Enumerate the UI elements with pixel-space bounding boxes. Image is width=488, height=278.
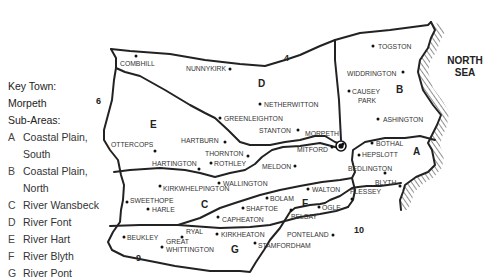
town-sweethope: SWEETHOPE [126, 197, 174, 204]
town-label: WALLINGTON [223, 180, 268, 187]
sea-label-line1: NORTH [447, 55, 483, 66]
town-dot-icon [402, 71, 405, 74]
town-label: COMBHILL [120, 60, 155, 67]
town-label: BOTHAL [376, 140, 403, 147]
town-label: HARTBURN [181, 137, 219, 144]
town-dot-icon [135, 55, 138, 58]
town-thornton: THORNTON [205, 150, 250, 158]
town-stamfordham: STAMFORDHAM [254, 242, 312, 250]
town-label: CAPHEATON [222, 216, 264, 223]
town-label: GREAT [166, 238, 189, 245]
town-causey: CAUSEY [348, 88, 381, 95]
town-whittington: WHITTINGTON [166, 246, 214, 253]
boundary-d-b [335, 40, 341, 140]
town-label: MORPETH [305, 130, 339, 137]
boundary-number: 6 [96, 96, 101, 106]
town-label: OTTERCOPS [111, 141, 154, 148]
area-label-g: G [231, 244, 239, 255]
map-canvas: COMBHILLNUNNYKIRKTOGSTONWIDDRINGTONCAUSE… [0, 0, 488, 278]
town-rothley: ROTHLEY [210, 160, 247, 167]
key-town-marker [336, 141, 346, 151]
town-capheaton: CAPHEATON [217, 216, 264, 224]
town-stanton: STANTON [259, 127, 300, 134]
area-label-f: F [302, 198, 308, 209]
town-dot-icon [224, 141, 227, 144]
town-dot-icon [348, 90, 351, 93]
town-greenleighton: GREENLEIGHTON [219, 115, 283, 122]
town-label: ROTHLEY [214, 160, 247, 167]
town-shaftoe: SHAFTOE [242, 205, 279, 212]
town-label: MITFORD [297, 146, 328, 153]
town-label: HEPSLOTT [362, 151, 398, 158]
town-label: RYAL [186, 228, 203, 235]
town-label: KIRKHEATON [221, 231, 265, 238]
town-nunnykirk: NUNNYKIRK [186, 65, 232, 72]
area-label-c: C [201, 199, 208, 210]
town-label: BEUKLEY [127, 234, 159, 241]
town-dot-icon [154, 150, 157, 153]
town-plessey: PLESSEY [350, 188, 381, 201]
area-label-d: D [258, 78, 265, 89]
town-label: MELDON [262, 163, 291, 170]
town-label: OGLE [322, 204, 341, 211]
town-dot-icon [297, 129, 300, 132]
town-beukley: BEUKLEY [123, 234, 159, 241]
town-dot-icon [307, 188, 310, 191]
town-ryal: RYAL [181, 228, 204, 239]
town-dot-icon [342, 143, 345, 146]
town-label: GREENLEIGHTON [224, 115, 283, 122]
town-dot-icon [266, 197, 269, 200]
town-dot-icon [229, 68, 232, 71]
town-dot-icon [247, 155, 250, 158]
town-harle: HARLE [147, 206, 176, 213]
town-dot-icon [242, 207, 245, 210]
town-dot-icon [123, 236, 126, 239]
town-bolam: BOLAM [266, 195, 295, 202]
town-label: PARK [358, 97, 376, 104]
town-label: TOGSTON [378, 43, 411, 50]
town-widdrington: WIDDRINGTON [347, 70, 405, 77]
town-dot-icon [259, 103, 262, 106]
town-dot-icon [219, 117, 222, 120]
town-label: NETHERWITTON [264, 101, 319, 108]
town-label: BELSAY [291, 213, 317, 220]
town-label: THORNTON [205, 150, 243, 157]
town-netherwitton: NETHERWITTON [259, 101, 319, 108]
town-dot-icon [147, 208, 150, 211]
town-dot-icon [358, 154, 361, 157]
town-park: PARK [358, 97, 376, 104]
town-label: ASHINGTON [383, 116, 423, 123]
town-dot-icon [198, 168, 201, 171]
town-dot-icon [254, 242, 257, 245]
town-label: SHAFTOE [246, 205, 278, 212]
town-hepslott: HEPSLOTT [358, 151, 398, 158]
town-label: BEDLINGTON [348, 165, 392, 172]
town-dot-icon [351, 198, 354, 201]
town-label: STAMFORDHAM [258, 242, 311, 249]
town-walton: WALTON [307, 186, 341, 193]
town-label: PLESSEY [350, 188, 381, 195]
town-dot-icon [126, 201, 129, 204]
town-ogle: OGLE [318, 204, 342, 211]
town-dot-icon [161, 246, 164, 249]
boundary-number: 9 [136, 253, 141, 263]
town-label: PONTELAND [287, 231, 329, 238]
town-label: STANTON [259, 127, 291, 134]
town-kirkheaton: KIRKHEATON [216, 231, 265, 238]
town-dot-icon [294, 165, 297, 168]
town-ashington: ASHINGTON [377, 116, 424, 123]
town-label: WIDDRINGTON [347, 70, 396, 77]
town-ottercops: OTTERCOPS [111, 141, 157, 153]
town-dot-icon [290, 209, 293, 212]
town-label: HARTINGTON [152, 160, 197, 167]
area-label-e: E [150, 119, 157, 130]
town-togston: TOGSTON [372, 43, 412, 50]
town-dot-icon [159, 185, 162, 188]
town-hartburn: HARTBURN [181, 137, 227, 144]
town-label: KIRKWHELPINGTON [163, 185, 229, 192]
town-dot-icon [318, 206, 321, 209]
sea-label-line2: SEA [455, 67, 476, 78]
boundary-number: 4 [284, 53, 289, 63]
town-dot-icon [399, 185, 402, 188]
boundary-d-e [116, 68, 250, 145]
